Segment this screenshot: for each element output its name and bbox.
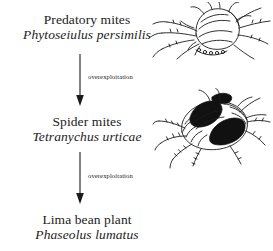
node-common-name: Predatory mites <box>12 12 162 27</box>
node-common-name: Spider mites <box>12 114 162 129</box>
node-spider-mites: Spider mites Tetranychus urticae <box>12 114 162 144</box>
arrow-label-overexploitation-1: overexploitation <box>88 73 133 80</box>
node-predatory-mites: Predatory mites Phytoseiulus persimilis <box>12 12 162 42</box>
node-latin-name: Tetranychus urticae <box>12 129 162 144</box>
node-common-name: Lima bean plant <box>12 212 162 227</box>
node-latin-name: Phytoseiulus persimilis <box>12 27 162 42</box>
arrow-predator-to-spider <box>72 54 88 106</box>
diagram-canvas: Predatory mites Phytoseiulus persimilis … <box>0 0 273 251</box>
spider-mite-illustration <box>152 88 273 170</box>
arrow-spider-to-plant <box>72 152 88 204</box>
node-latin-name: Phaseolus lumatus <box>12 227 162 242</box>
predatory-mite-illustration <box>144 2 273 64</box>
arrow-label-overexploitation-2: overexploitation <box>88 172 133 179</box>
node-lima-bean-plant: Lima bean plant Phaseolus lumatus <box>12 212 162 242</box>
